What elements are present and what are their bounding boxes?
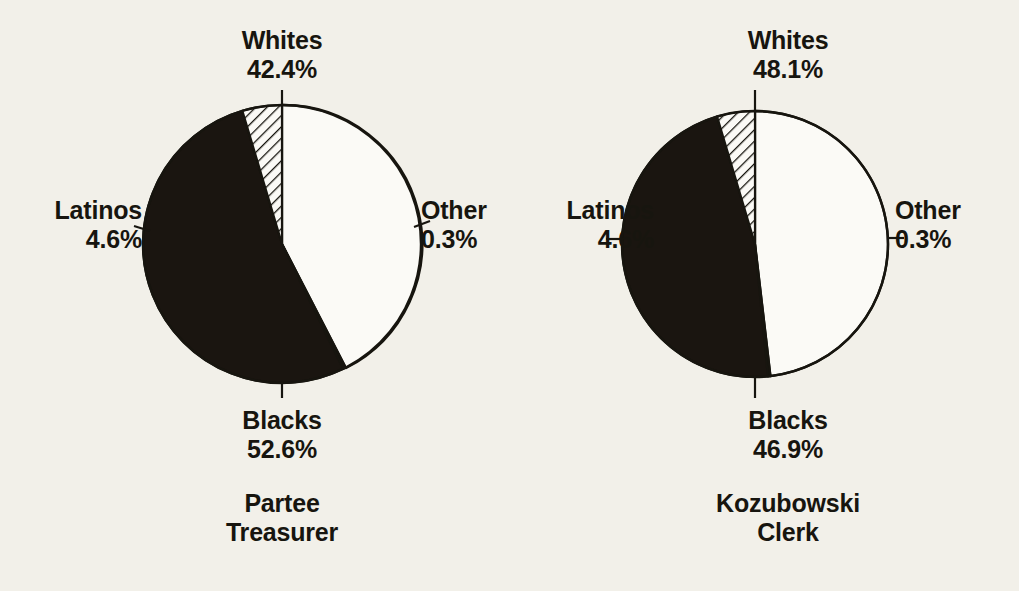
- label-latinos-name: Latinos: [55, 196, 143, 224]
- label-latinos: Latinos 4.6%: [0, 196, 142, 254]
- caption-line-1: Kozubowski: [716, 489, 860, 517]
- caption-line-2: Treasurer: [182, 518, 382, 547]
- label-blacks-name: Blacks: [748, 406, 827, 434]
- label-whites-pct: 42.4%: [182, 55, 382, 84]
- label-blacks-name: Blacks: [242, 406, 321, 434]
- label-whites-name: Whites: [748, 26, 829, 54]
- pie-chart-kozubowski: Whites 48.1% Blacks 46.9% Latinos 4.6% O…: [510, 0, 1019, 591]
- label-other-name: Other: [421, 196, 487, 224]
- label-latinos-name: Latinos: [567, 196, 655, 224]
- slice-whites: [755, 111, 888, 376]
- caption-line-2: Clerk: [668, 518, 908, 547]
- label-blacks: Blacks 52.6%: [182, 406, 382, 464]
- label-blacks-pct: 52.6%: [182, 435, 382, 464]
- caption-line-1: Partee: [244, 489, 319, 517]
- label-other: Other 0.3%: [895, 196, 1019, 254]
- label-other-name: Other: [895, 196, 961, 224]
- chart-caption-kozubowski: Kozubowski Clerk: [668, 489, 908, 547]
- label-whites: Whites 48.1%: [688, 26, 888, 84]
- label-blacks: Blacks 46.9%: [688, 406, 888, 464]
- label-latinos-pct: 4.6%: [504, 225, 654, 254]
- pie-chart-figure: Whites 42.4% Blacks 52.6% Latinos 4.6% O…: [0, 0, 1019, 591]
- chart-caption-partee: Partee Treasurer: [182, 489, 382, 547]
- label-other-pct: 0.3%: [895, 225, 1019, 254]
- pie-chart-partee: Whites 42.4% Blacks 52.6% Latinos 4.6% O…: [0, 0, 510, 591]
- label-whites: Whites 42.4%: [182, 26, 382, 84]
- label-whites-name: Whites: [242, 26, 323, 54]
- label-latinos-pct: 4.6%: [0, 225, 142, 254]
- label-latinos: Latinos 4.6%: [504, 196, 654, 254]
- label-whites-pct: 48.1%: [688, 55, 888, 84]
- label-blacks-pct: 46.9%: [688, 435, 888, 464]
